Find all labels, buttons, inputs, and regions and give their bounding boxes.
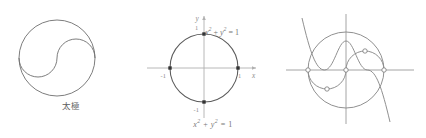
- panel-overlay: [284, 0, 426, 138]
- point-marker-left: [168, 66, 171, 69]
- xtick-label-pos: 1: [238, 72, 241, 79]
- overlay-svg: [284, 0, 426, 138]
- xtick-label-neg: -1: [161, 72, 166, 79]
- unit-circle-equation-inline: x2 + y2 = 1: [205, 26, 239, 37]
- taiji-svg: [0, 0, 142, 138]
- x-axis-arrowhead: [252, 66, 256, 70]
- panel-unit-circle: 1 -1 1 -1 x y x2 + y2 = 1 x2 + y2 = 1: [142, 0, 284, 138]
- taiji-caption: 太極: [0, 99, 142, 111]
- marker-arc-lower-left: [325, 87, 329, 91]
- marker-intersection-right: [382, 68, 386, 72]
- three-panel-figure: 太極 1 -1 1 -1 x y x2 + y2: [0, 0, 426, 138]
- point-marker-right: [236, 66, 239, 69]
- x-axis-label: x: [251, 72, 256, 80]
- y-axis-label: y: [195, 15, 200, 23]
- unit-circle-equation-bottom: x2 + y2 = 1: [142, 118, 284, 129]
- taiji-s-curve: [19, 39, 95, 77]
- eq-rhs: 1: [235, 28, 239, 37]
- marker-intersection-origin: [344, 68, 348, 72]
- panel-taiji: 太極: [0, 0, 142, 138]
- marker-intersection-left: [306, 68, 310, 72]
- point-marker-bottom: [202, 100, 205, 103]
- ytick-label-neg: -1: [194, 106, 199, 113]
- marker-arc-upper-right: [363, 49, 367, 53]
- eqb-equals: =: [221, 120, 226, 129]
- eqb-rhs: 1: [228, 120, 233, 129]
- y-axis-arrowhead: [202, 16, 206, 20]
- ytick-label-pos: 1: [195, 24, 198, 31]
